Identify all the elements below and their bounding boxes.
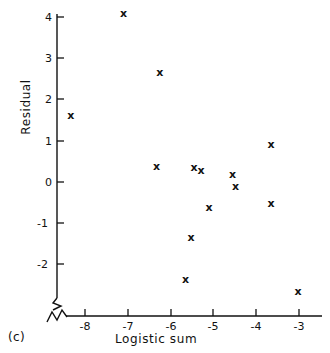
data-point-marker: x [65,110,76,121]
data-point-marker: x [266,198,277,209]
data-point-marker: x [180,274,191,285]
data-point-marker: x [151,161,162,172]
data-point-marker: x [195,165,206,176]
data-point-layer: xxxxxxxxxxxxxx [0,0,330,353]
data-point-marker: x [266,139,277,150]
data-point-marker: x [230,181,241,192]
data-point-marker: x [204,202,215,213]
data-point-marker: x [227,169,238,180]
scatter-plot: 4 3 2 1 0 -1 -2 -8 -7 -6 -5 -4 -3 Residu… [0,0,330,353]
data-point-marker: x [186,232,197,243]
data-point-marker: x [118,8,129,19]
data-point-marker: x [154,67,165,78]
data-point-marker: x [293,286,304,297]
